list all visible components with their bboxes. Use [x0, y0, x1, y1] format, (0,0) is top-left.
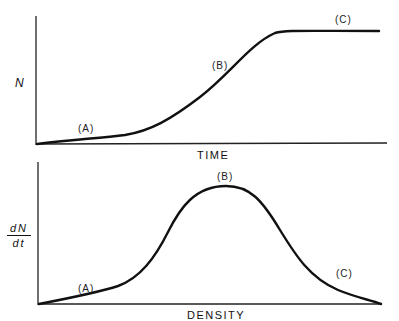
top-y-axis-label: N — [15, 76, 24, 90]
dt-denominator: dt — [7, 236, 31, 249]
top-point-c-label: (C) — [335, 14, 352, 25]
top-point-b-label: (B) — [212, 60, 228, 71]
bottom-y-axis-label: dN dt — [7, 222, 31, 249]
bottom-point-c-label: (C) — [336, 268, 353, 279]
bottom-point-a-label: (A) — [78, 283, 94, 294]
top-point-a-label: (A) — [78, 123, 94, 134]
bottom-point-b-label: (B) — [217, 171, 233, 182]
top-x-axis — [36, 143, 387, 144]
top-x-axis-label: TIME — [197, 149, 229, 161]
dn-numerator: dN — [7, 222, 31, 236]
bottom-x-axis-label: DENSITY — [187, 309, 245, 321]
